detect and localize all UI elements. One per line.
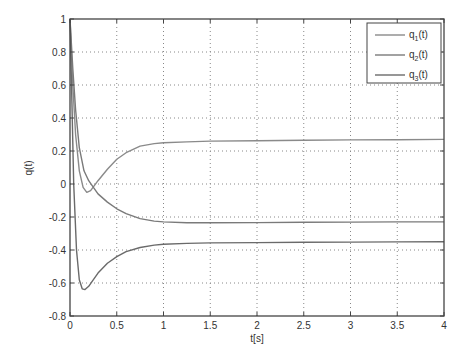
x-tick-label: 4 [441,320,447,331]
y-axis-label: q(t) [23,161,34,176]
legend-box [367,23,441,83]
x-tick-label: 2 [254,320,260,331]
y-tick-label: 0.8 [52,47,66,58]
y-tick-label: 0.4 [52,113,66,124]
y-tick-label: -0.8 [49,311,67,322]
y-tick-label: 0 [60,179,66,190]
y-tick-label: 0.2 [52,146,66,157]
x-tick-label: 1 [161,320,167,331]
x-tick-label: 1.5 [203,320,217,331]
y-tick-label: -0.6 [49,278,67,289]
x-tick-label: 3.5 [390,320,404,331]
y-tick-label: -0.2 [49,212,67,223]
x-axis-label: t[s] [250,333,264,344]
legend: q1(t)q2(t)q3(t) [367,23,441,83]
line-chart: 00.511.522.533.54-0.8-0.6-0.4-0.200.20.4… [0,0,469,364]
x-tick-label: 0.5 [110,320,124,331]
y-tick-label: 0.6 [52,80,66,91]
y-tick-label: 1 [60,14,66,25]
x-tick-label: 0 [67,320,73,331]
y-tick-label: -0.4 [49,245,67,256]
x-tick-label: 3 [348,320,354,331]
x-tick-label: 2.5 [297,320,311,331]
